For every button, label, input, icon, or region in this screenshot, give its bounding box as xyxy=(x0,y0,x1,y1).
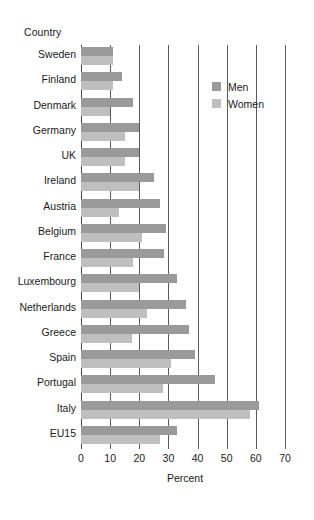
bar-women xyxy=(81,283,139,292)
bar-women xyxy=(81,81,113,90)
x-axis-tick-label: 20 xyxy=(133,452,145,464)
bar-women xyxy=(81,233,142,242)
legend-label-women: Women xyxy=(228,98,264,110)
bar-women xyxy=(81,258,133,267)
y-axis-tick-label: Spain xyxy=(49,351,76,363)
x-axis-title: Percent xyxy=(0,472,314,484)
bar-men xyxy=(81,401,259,410)
bar-women xyxy=(81,309,147,318)
y-axis-tick-label: Denmark xyxy=(33,99,76,111)
bar-row xyxy=(81,300,285,318)
x-axis-tick-labels: 010203040506070 xyxy=(81,452,285,466)
y-axis-tick-label: Greece xyxy=(42,326,76,338)
bar-women xyxy=(81,384,163,393)
bar-women xyxy=(81,359,171,368)
x-axis-tick-label: 70 xyxy=(279,452,291,464)
y-axis-tick-label: France xyxy=(43,250,76,262)
bar-row xyxy=(81,325,285,343)
legend-entry-women: Women xyxy=(212,95,296,112)
x-axis-title-text: Percent xyxy=(167,472,203,484)
bar-men xyxy=(81,274,177,283)
y-axis-tick-label: EU15 xyxy=(50,427,76,439)
bar-men xyxy=(81,199,160,208)
bar-men xyxy=(81,123,139,132)
y-axis-tick-label: Austria xyxy=(43,200,76,212)
bar-row xyxy=(81,123,285,141)
women-swatch-icon xyxy=(212,99,221,108)
y-axis-tick-label: Sweden xyxy=(38,48,76,60)
bar-women xyxy=(81,410,250,419)
bar-row xyxy=(81,401,285,419)
y-axis-tick-label: Belgium xyxy=(38,225,76,237)
bar-men xyxy=(81,224,166,233)
y-axis-tick-label: Finland xyxy=(42,73,76,85)
x-axis-tick-label: 0 xyxy=(78,452,84,464)
bar-women xyxy=(81,107,110,116)
bar-men xyxy=(81,72,122,81)
x-axis-tick-label: 60 xyxy=(250,452,262,464)
legend-entry-men: Men xyxy=(212,78,296,95)
bar-men xyxy=(81,47,113,56)
y-axis-tick-label: Portugal xyxy=(37,376,76,388)
bar-women xyxy=(81,208,119,217)
bar-row xyxy=(81,148,285,166)
x-axis-tick-label: 30 xyxy=(163,452,175,464)
bar-row xyxy=(81,173,285,191)
bar-men xyxy=(81,173,154,182)
bar-women xyxy=(81,56,113,65)
bar-women xyxy=(81,157,125,166)
y-axis-tick-label: Italy xyxy=(57,402,76,414)
bar-women xyxy=(81,334,132,343)
bar-chart: Country SwedenFinlandDenmarkGermanyUKIre… xyxy=(0,0,314,520)
bar-row xyxy=(81,249,285,267)
bar-row xyxy=(81,274,285,292)
bar-men xyxy=(81,426,177,435)
x-axis-tick-label: 10 xyxy=(104,452,116,464)
y-axis-tick-label: Ireland xyxy=(44,174,76,186)
y-axis-tick-label: Netherlands xyxy=(19,301,76,313)
y-axis-tick-label: Luxembourg xyxy=(18,275,76,287)
y-axis-tick-label: UK xyxy=(61,149,76,161)
x-axis-tick-label: 50 xyxy=(221,452,233,464)
bar-men xyxy=(81,98,133,107)
bar-men xyxy=(81,350,195,359)
bar-women xyxy=(81,182,139,191)
men-swatch-icon xyxy=(212,82,221,91)
bar-men xyxy=(81,249,164,258)
bar-row xyxy=(81,224,285,242)
bar-row xyxy=(81,199,285,217)
bar-row xyxy=(81,47,285,65)
y-axis-tick-label: Germany xyxy=(33,124,76,136)
bar-men xyxy=(81,300,186,309)
bar-men xyxy=(81,375,215,384)
bar-row xyxy=(81,426,285,444)
bar-men xyxy=(81,325,189,334)
bar-row xyxy=(81,375,285,393)
bar-women xyxy=(81,435,160,444)
x-axis-tick-label: 40 xyxy=(192,452,204,464)
bar-row xyxy=(81,350,285,368)
legend: Men Women xyxy=(212,78,296,112)
bar-women xyxy=(81,132,125,141)
bar-men xyxy=(81,148,139,157)
y-axis-title: Country xyxy=(24,26,61,38)
legend-label-men: Men xyxy=(228,81,248,93)
